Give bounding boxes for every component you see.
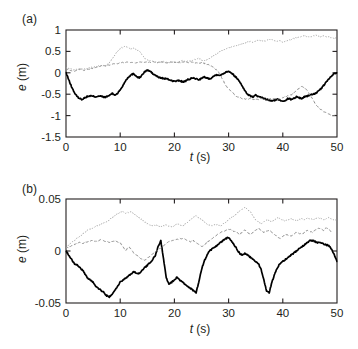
x-tick-label: 20 [168,141,181,153]
data-trace-solid-black [66,70,337,101]
x-tick-label: 20 [168,307,181,319]
data-trace-dotted-gray [66,35,337,70]
data-trace-dashed-gray [66,61,337,115]
x-tick-label: 30 [222,307,235,319]
x-tick-label: 40 [276,307,289,319]
figure-container: (a) e (m) t (s) 0102030405010.50-0.5-1-1… [0,0,358,349]
x-tick-label: 50 [331,141,344,153]
y-tick-label: -0.05 [35,297,61,309]
x-tick-label: 30 [222,141,235,153]
y-tick-label: 0.05 [39,193,61,205]
chart-panel-b: (b) e (m) t (s) 010203040500.050-0.05 [0,174,358,349]
x-tick-label: 0 [63,307,69,319]
y-tick-label: 1 [55,24,61,36]
y-tick-label: 0 [55,245,61,257]
x-tick-label: 50 [331,307,344,319]
y-tick-label: 0 [55,67,61,79]
plot-area-a: 0102030405010.50-0.5-1-1.5 [0,0,358,175]
x-tick-label: 10 [114,141,127,153]
y-tick-label: 0.5 [45,45,61,57]
chart-panel-a: (a) e (m) t (s) 0102030405010.50-0.5-1-1… [0,0,358,175]
y-tick-label: -1.5 [41,131,61,143]
data-trace-dotted-gray [66,207,337,248]
x-tick-label: 40 [276,141,289,153]
y-tick-label: -1 [51,110,61,122]
plot-area-b: 010203040500.050-0.05 [0,174,358,349]
x-tick-label: 0 [63,141,69,153]
y-tick-label: -0.5 [41,88,61,100]
x-tick-label: 10 [114,307,127,319]
